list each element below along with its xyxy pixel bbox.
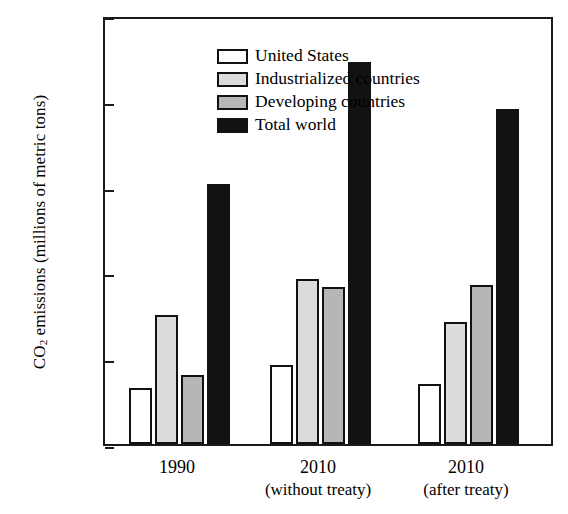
x-axis-group-sublabel: (without treaty) xyxy=(265,479,371,500)
bar-developing-countries-1 xyxy=(322,287,345,444)
bar-industrialized-countries-1 xyxy=(296,279,319,444)
legend-item-total-world: Total world xyxy=(217,114,467,136)
x-axis-group-label: 1990 xyxy=(159,456,195,479)
y-axis-tick xyxy=(105,447,114,449)
bar-united-states-2 xyxy=(418,384,441,444)
legend-item-label: United States xyxy=(255,47,349,65)
x-axis-group-label-main: 2010 xyxy=(300,457,336,477)
bar-total-world-2 xyxy=(496,109,519,444)
y-axis-title-post: emissions (millions of metric tons) xyxy=(30,95,49,340)
bar-developing-countries-0 xyxy=(181,375,204,444)
y-axis-tick xyxy=(105,18,114,20)
x-axis-group-label: 2010(without treaty) xyxy=(265,456,371,500)
x-axis-group-label: 2010(after treaty) xyxy=(423,456,508,500)
y-axis-tick xyxy=(105,104,114,106)
co2-emissions-bar-chart: CO2 emissions (millions of metric tons) … xyxy=(0,0,568,514)
y-axis-title-pre: CO xyxy=(30,345,49,369)
bar-industrialized-countries-2 xyxy=(444,322,467,444)
x-axis-group-label-main: 2010 xyxy=(448,457,484,477)
x-axis-group-sublabel: (after treaty) xyxy=(423,479,508,500)
bar-total-world-0 xyxy=(207,184,230,444)
bar-developing-countries-2 xyxy=(470,285,493,444)
bar-united-states-1 xyxy=(270,365,293,444)
plot-frame: United StatesIndustrialized countriesDev… xyxy=(103,17,553,446)
legend-item-label: Developing countries xyxy=(255,93,405,111)
bar-industrialized-countries-0 xyxy=(155,315,178,444)
y-axis-tick xyxy=(105,361,114,363)
y-axis-tick xyxy=(105,190,114,192)
legend-item-label: Total world xyxy=(255,116,336,134)
legend-item-developing-countries: Developing countries xyxy=(217,91,467,113)
legend-item-united-states: United States xyxy=(217,45,467,67)
y-axis-tick xyxy=(105,275,114,277)
x-axis-group-label-main: 1990 xyxy=(159,457,195,477)
legend-swatch-icon xyxy=(217,72,248,87)
y-axis-title: CO2 emissions (millions of metric tons) xyxy=(30,22,50,442)
legend-swatch-icon xyxy=(217,95,248,110)
legend: United StatesIndustrialized countriesDev… xyxy=(217,45,467,137)
legend-item-industrialized-countries: Industrialized countries xyxy=(217,68,467,90)
y-axis-title-subscript: 2 xyxy=(37,340,49,346)
bar-united-states-0 xyxy=(129,388,152,444)
legend-item-label: Industrialized countries xyxy=(255,70,420,88)
legend-swatch-icon xyxy=(217,49,248,64)
legend-swatch-icon xyxy=(217,118,248,133)
